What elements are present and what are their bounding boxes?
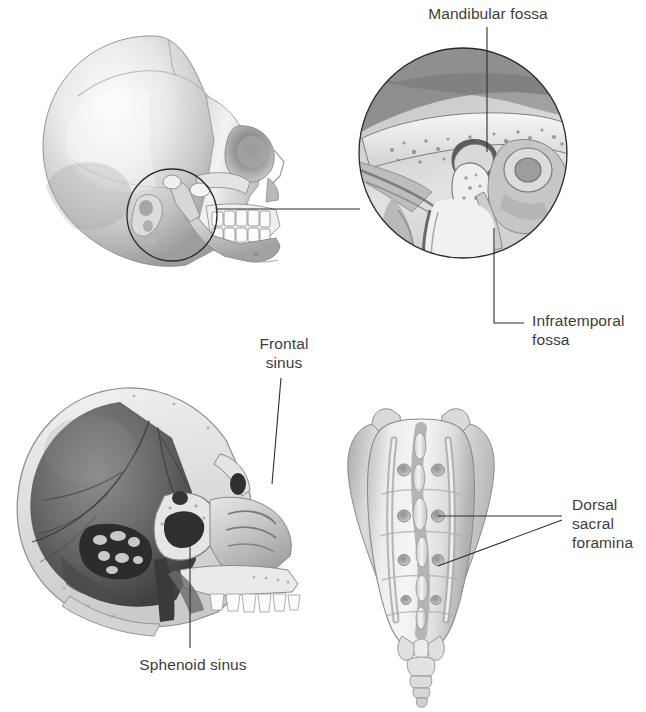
lateral-skull-figure: [0, 0, 340, 300]
sagittal-skull-drawing: [17, 388, 300, 636]
mandibular-fossa-label: Mandibular fossa: [408, 4, 568, 23]
dorsal-sacral-foramina-label: Dorsal sacral foramina: [572, 495, 646, 552]
anatomy-figure-page: Mandibular fossa Infratemporal fossa Fro…: [0, 0, 646, 712]
sacrum-drawing: [348, 409, 495, 707]
infratemporal-fossa-label: Infratemporal fossa: [532, 311, 644, 349]
frontal-sinus-cavity: [230, 473, 246, 495]
lateral-skull-drawing: [43, 36, 284, 266]
coccyx: [407, 657, 435, 707]
sphenoid-sinus-label: Sphenoid sinus: [112, 655, 274, 674]
tmj-inset-drawing: [352, 42, 580, 270]
frontal-sinus-label: Frontal sinus: [238, 334, 330, 372]
tmj-inset-figure: [352, 42, 580, 270]
sagittal-skull-figure: [4, 374, 334, 664]
sacrum-figure: [338, 398, 538, 708]
